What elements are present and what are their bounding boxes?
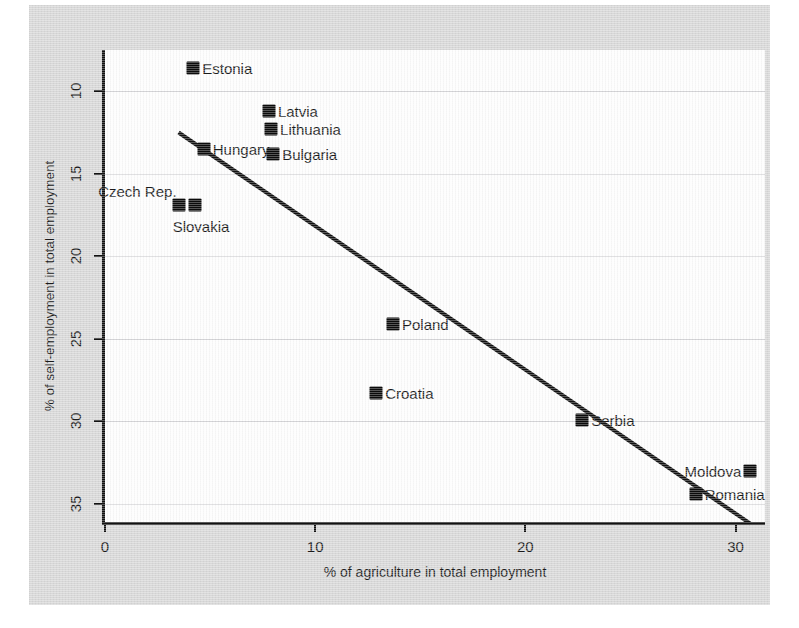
gridline-y <box>105 91 765 92</box>
point-label: Lithuania <box>280 121 341 138</box>
y-tick <box>94 503 105 505</box>
point-label: Serbia <box>591 411 634 428</box>
y-tick-label: 20 <box>67 248 84 265</box>
x-tick <box>104 522 106 532</box>
point-label: Bulgaria <box>282 145 337 162</box>
x-tick <box>735 522 737 532</box>
point-marker <box>744 464 757 477</box>
point-label: Estonia <box>202 60 252 77</box>
point-label: Hungary <box>213 141 270 158</box>
y-tick-label: 15 <box>67 165 84 182</box>
y-tick <box>94 255 105 257</box>
gridline-y <box>105 504 765 505</box>
point-marker <box>187 62 200 75</box>
point-label: Latvia <box>278 103 318 120</box>
y-tick <box>94 173 105 175</box>
gridline-y <box>105 421 765 422</box>
point-label: Croatia <box>385 385 433 402</box>
y-tick <box>94 420 105 422</box>
gridline-y <box>105 174 765 175</box>
y-axis-title: % of self-employment in total employment <box>42 161 57 412</box>
point-marker <box>267 147 280 160</box>
x-tick-label: 0 <box>101 538 109 555</box>
y-tick-label: 30 <box>67 413 84 430</box>
gridline-y <box>105 339 765 340</box>
figure-panel: 101520253035 0102030 EstoniaLatviaLithua… <box>29 5 770 605</box>
x-tick-label: 20 <box>517 538 534 555</box>
y-tick-label: 25 <box>67 330 84 347</box>
point-marker <box>189 199 202 212</box>
x-tick-label: 10 <box>307 538 324 555</box>
point-marker <box>172 199 185 212</box>
y-tick <box>94 90 105 92</box>
x-tick-label: 30 <box>727 538 744 555</box>
point-marker <box>386 317 399 330</box>
x-axis-title: % of agriculture in total employment <box>105 564 765 580</box>
point-label: Moldova <box>685 462 742 479</box>
point-marker <box>689 487 702 500</box>
point-marker <box>370 387 383 400</box>
x-tick <box>314 522 316 532</box>
trend-line <box>105 50 765 522</box>
gridline-y <box>105 256 765 257</box>
x-tick <box>524 522 526 532</box>
point-label: Czech Rep. <box>98 183 176 200</box>
point-label: Romania <box>705 485 765 502</box>
point-marker <box>197 143 210 156</box>
plot-area: 101520253035 0102030 EstoniaLatviaLithua… <box>102 50 765 525</box>
point-marker <box>265 123 278 136</box>
point-marker <box>262 105 275 118</box>
point-label: Poland <box>402 315 449 332</box>
y-tick-label: 35 <box>67 496 84 513</box>
y-tick-label: 10 <box>67 83 84 100</box>
y-tick <box>94 338 105 340</box>
point-marker <box>576 413 589 426</box>
point-label: Slovakia <box>173 218 230 235</box>
